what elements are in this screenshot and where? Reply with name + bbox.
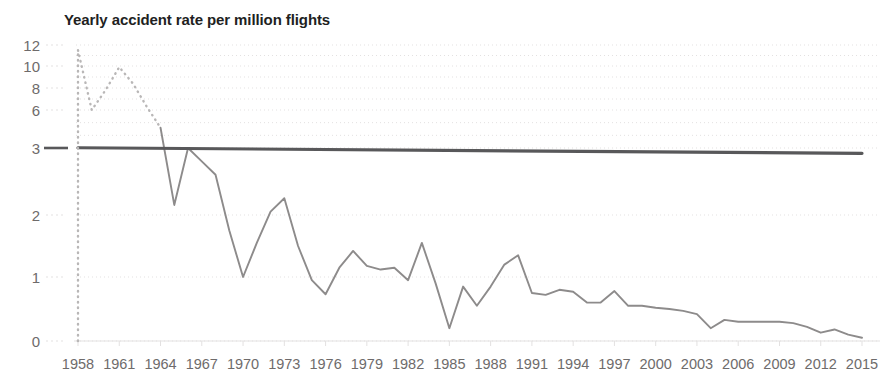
y-axis-tick-label: 2 <box>32 207 40 224</box>
x-axis-tick-label: 1991 <box>516 356 548 372</box>
x-axis-tick-labels: 1958196119641967197019731976197919821985… <box>62 356 878 372</box>
x-axis-tick-label: 1967 <box>186 356 218 372</box>
x-axis-tick-label: 2012 <box>805 356 837 372</box>
x-axis-tick-label: 1973 <box>268 356 300 372</box>
x-axis-tick-label: 1970 <box>227 356 259 372</box>
chart-plot-area: 0123681012 19581961196419671970197319761… <box>0 0 890 392</box>
y-axis-tick-label: 1 <box>32 269 40 286</box>
gridlines <box>44 45 880 341</box>
x-axis-tick-label: 2015 <box>846 356 878 372</box>
x-axis-tick-label: 1976 <box>309 356 341 372</box>
x-axis-tick-label: 1994 <box>557 356 589 372</box>
y-axis-tick-label: 0 <box>32 333 40 350</box>
y-axis-tick-label: 10 <box>23 58 40 75</box>
y-axis-tick-label: 12 <box>23 37 40 54</box>
series-line-0 <box>78 50 161 127</box>
x-axis-tick-label: 1997 <box>598 356 630 372</box>
chart-container: Yearly accident rate per million flights… <box>0 0 890 392</box>
axis-lines <box>74 341 880 346</box>
x-axis-tick-label: 1958 <box>62 356 94 372</box>
x-axis-tick-label: 1985 <box>433 356 465 372</box>
y-axis-tick-label: 8 <box>32 80 40 97</box>
y-axis-tick-label: 6 <box>32 102 40 119</box>
x-axis-tick-label: 1982 <box>392 356 424 372</box>
x-axis-tick-label: 2006 <box>722 356 754 372</box>
x-axis-tick-label: 1979 <box>351 356 383 372</box>
x-axis-tick-label: 2009 <box>763 356 795 372</box>
x-axis-tick-label: 2003 <box>681 356 713 372</box>
data-series <box>78 50 862 341</box>
x-axis-tick-label: 1988 <box>474 356 506 372</box>
x-axis-tick-label: 1964 <box>144 356 176 372</box>
series-line-1 <box>161 128 862 338</box>
series-line-2 <box>78 148 862 154</box>
x-axis-tick-label: 1961 <box>103 356 135 372</box>
y-axis-tick-labels: 0123681012 <box>23 37 40 350</box>
x-axis-tick-label: 2000 <box>640 356 672 372</box>
y-axis-tick-label: 3 <box>32 140 40 157</box>
